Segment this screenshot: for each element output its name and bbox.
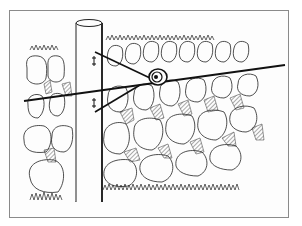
grass: [30, 35, 239, 202]
stone-wall: [24, 41, 258, 192]
insulator: [149, 69, 167, 85]
fence-post: [76, 20, 102, 204]
brace-wires: [95, 52, 150, 112]
fence-illustration: [0, 0, 302, 226]
